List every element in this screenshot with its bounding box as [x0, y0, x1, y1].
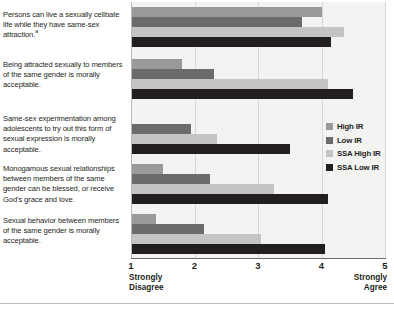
- legend-item[interactable]: SSA High IR: [326, 147, 394, 161]
- legend-swatch-icon: [326, 150, 333, 157]
- footer-divider: [0, 303, 394, 304]
- bar: [131, 79, 328, 89]
- chart-legend: High IRLow IRSSA High IRSSA Low IR: [326, 120, 394, 174]
- category-label: Sexual behavior between members of the s…: [3, 216, 127, 247]
- bar: [131, 144, 290, 154]
- legend-swatch-icon: [326, 137, 333, 144]
- category-label: Monogamous sexual relationships between …: [3, 164, 127, 205]
- x-tick-label: 1: [111, 260, 151, 271]
- bar: [131, 69, 214, 79]
- bar: [131, 37, 331, 47]
- grouped-bar-chart: Persons can live a sexually celibate lif…: [0, 0, 394, 311]
- bar: [131, 244, 325, 254]
- bar: [131, 89, 353, 99]
- x-tick-label: 4: [302, 260, 342, 271]
- category-label-list: Persons can live a sexually celibate lif…: [0, 0, 128, 258]
- x-tick-label: 2: [175, 260, 215, 271]
- bar: [131, 234, 261, 244]
- legend-label: SSA High IR: [337, 149, 381, 158]
- category-label: Persons can live a sexually celibate lif…: [3, 10, 127, 41]
- x-axis-line: [131, 258, 386, 259]
- x-tick-label: 3: [238, 260, 278, 271]
- x-tick-label: 5: [365, 260, 394, 271]
- footnote-marker: a: [35, 29, 38, 35]
- legend-item[interactable]: SSA Low IR: [326, 161, 394, 175]
- x-axis-high-caption: StronglyAgree: [313, 273, 387, 293]
- bar: [131, 17, 302, 27]
- bar: [131, 184, 274, 194]
- legend-swatch-icon: [326, 164, 333, 171]
- bar: [131, 174, 210, 184]
- bar: [131, 134, 217, 144]
- bar: [131, 27, 344, 37]
- category-label: Same-sex experimentation among adolescen…: [3, 114, 127, 155]
- bar: [131, 194, 328, 204]
- bar: [131, 124, 191, 134]
- legend-item[interactable]: High IR: [326, 120, 394, 134]
- bar: [131, 224, 204, 234]
- bar: [131, 7, 322, 17]
- legend-item[interactable]: Low IR: [326, 134, 394, 148]
- legend-label: SSA Low IR: [337, 163, 379, 172]
- x-axis-low-caption: StronglyDisagree: [129, 273, 203, 293]
- legend-label: High IR: [337, 122, 363, 131]
- y-axis-line: [131, 2, 132, 259]
- bar: [131, 214, 156, 224]
- legend-label: Low IR: [337, 136, 362, 145]
- bar: [131, 59, 182, 69]
- bar: [131, 164, 163, 174]
- category-label: Being attracted sexually to members of t…: [3, 60, 127, 91]
- legend-swatch-icon: [326, 123, 333, 130]
